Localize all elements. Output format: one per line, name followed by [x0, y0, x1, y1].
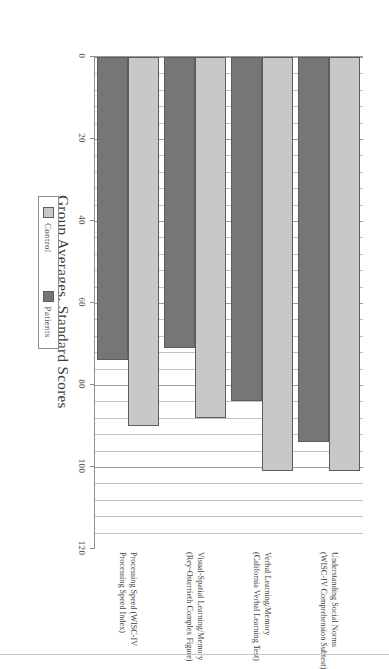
- axis-tick-label: 20: [77, 133, 87, 143]
- axis-tick: [90, 220, 95, 221]
- scan-bottom-rule: [0, 654, 389, 655]
- category-label-line1: Verbal Learning/Memory: [263, 552, 274, 635]
- legend-swatch-patients-icon: [43, 291, 54, 302]
- axis-tick: [90, 302, 95, 303]
- category-label: Visual-Spatial Learning/Memory(Rey-Oster…: [162, 548, 229, 652]
- category-label: Processing Speed (WISC-IVProcessing Spee…: [95, 548, 162, 652]
- axis-tick-label: 40: [77, 215, 87, 225]
- category-label-line1: Visual-Spatial Learning/Memory: [196, 552, 207, 660]
- bar-group: [162, 57, 229, 548]
- bar-control: [263, 57, 294, 471]
- value-axis: 020406080100120: [94, 56, 95, 548]
- category-label-line2: (California Verbal Learning Test): [252, 552, 263, 661]
- bar-control: [196, 57, 227, 418]
- bar-group: [95, 57, 162, 548]
- bar-group: [229, 57, 296, 548]
- plot-area: [95, 56, 363, 548]
- legend-swatch-control-icon: [43, 207, 54, 218]
- bar-patients: [165, 57, 196, 348]
- category-label: Understanding Social Norms(WISC-IV Compr…: [296, 548, 363, 652]
- legend-item-patients: Patients: [43, 291, 54, 338]
- legend-label-patients: Patients: [44, 307, 54, 338]
- bar-patients: [98, 57, 129, 360]
- category-label-line1: Understanding Social Norms: [330, 552, 341, 647]
- axis-tick: [90, 56, 95, 57]
- axis-tick-label: 60: [77, 297, 87, 307]
- bar-control: [330, 57, 361, 471]
- category-label-line2: Processing Speed Index): [118, 552, 129, 633]
- axis-tick-label: 0: [77, 54, 87, 59]
- category-label: Verbal Learning/Memory(California Verbal…: [229, 548, 296, 652]
- axis-tick-label: 120: [77, 541, 87, 555]
- legend-label-control: Control: [44, 223, 54, 253]
- axis-tick: [90, 384, 95, 385]
- bar-patients: [299, 57, 330, 442]
- axis-tick-label: 80: [77, 379, 87, 389]
- axis-tick-label: 100: [77, 459, 87, 473]
- category-label-line2: (Rey-Osterrieth Complex Figure): [185, 552, 196, 662]
- bar-control: [129, 57, 160, 426]
- category-axis-labels: Understanding Social Norms(WISC-IV Compr…: [95, 548, 363, 652]
- category-label-line2: (WISC-IV Comprehension Subtest): [319, 552, 330, 669]
- bar-groups: [95, 57, 363, 548]
- axis-tick: [90, 138, 95, 139]
- plot-wrapper: [95, 56, 363, 548]
- legend-item-control: Control: [43, 207, 54, 253]
- bar-group: [296, 57, 363, 548]
- chart-legend: Control Patients: [38, 196, 59, 349]
- bar-patients: [232, 57, 263, 401]
- axis-tick: [90, 466, 95, 467]
- category-label-line1: Processing Speed (WISC-IV: [129, 552, 140, 646]
